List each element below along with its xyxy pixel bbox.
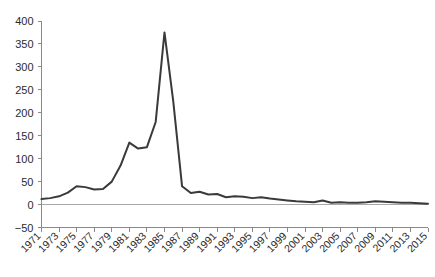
y-tick-label: 50 xyxy=(21,176,33,188)
x-tick-label: 2015 xyxy=(404,229,429,254)
x-axis: 1971197319751977197919811983198519871989… xyxy=(18,228,430,255)
y-tick-label: 250 xyxy=(15,84,33,96)
y-tick-label: 300 xyxy=(15,61,33,73)
y-tick-label: 200 xyxy=(15,107,33,119)
y-tick-label: 400 xyxy=(15,15,33,27)
data-series-group xyxy=(42,32,429,203)
y-tick-label: 100 xyxy=(15,153,33,165)
line-chart: 400350300250200150100500−50 197119731975… xyxy=(0,0,435,277)
chart-container: 400350300250200150100500−50 197119731975… xyxy=(0,0,435,277)
y-tick-label: 0 xyxy=(27,199,33,211)
y-tick-label: 150 xyxy=(15,130,33,142)
y-axis: 400350300250200150100500−50 xyxy=(15,15,42,234)
y-tick-label: 350 xyxy=(15,38,33,50)
y-tick-label: −50 xyxy=(15,222,34,234)
data-line-series-1 xyxy=(42,32,429,203)
